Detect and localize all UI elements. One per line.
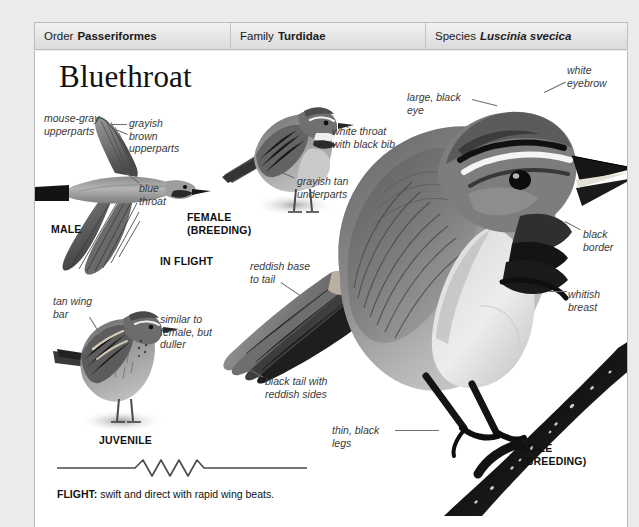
caption-male-in-flight: MALE xyxy=(51,223,82,236)
annotation-blue-throat: blue throat xyxy=(139,182,166,207)
flight-caption: FLIGHT: swift and direct with rapid wing… xyxy=(57,488,274,500)
annotation-similar-to-female: similar to female, but duller xyxy=(160,313,212,351)
annotation-grayish-brown-upperparts: grayish brown upperparts xyxy=(129,117,179,155)
flight-label: FLIGHT: xyxy=(57,488,97,500)
annotation-white-eyebrow: white eyebrow xyxy=(567,64,607,89)
order-label: Order xyxy=(44,30,73,42)
flight-description: swift and direct with rapid wing beats. xyxy=(97,488,274,500)
taxonomy-cell-family: Family Turdidae xyxy=(231,23,426,49)
flight-pattern-graphic xyxy=(57,457,307,479)
annotation-black-border: black border xyxy=(583,228,613,253)
annotation-whitish-breast: whitish breast xyxy=(568,288,600,313)
annotation-thin-black-legs: thin, black legs xyxy=(332,424,379,449)
page-title: Bluethroat xyxy=(59,59,192,95)
taxonomy-cell-species: Species Luscinia svecica xyxy=(426,23,627,49)
order-value: Passeriformes xyxy=(77,30,156,42)
annotation-mouse-gray-upperparts: mouse-gray upperparts xyxy=(44,112,99,137)
caption-in-flight: IN FLIGHT xyxy=(160,255,213,268)
family-value: Turdidae xyxy=(278,30,326,42)
species-value: Luscinia svecica xyxy=(480,30,571,42)
family-label: Family xyxy=(240,30,274,42)
annotation-black-tail-reddish-sides: black tail with reddish sides xyxy=(265,375,327,400)
caption-juvenile: JUVENILE xyxy=(99,434,152,447)
field-guide-page: Order Passeriformes Family Turdidae Spec… xyxy=(0,0,639,527)
species-label: Species xyxy=(435,30,476,42)
taxonomy-cell-order: Order Passeriformes xyxy=(35,23,231,49)
taxonomy-bar: Order Passeriformes Family Turdidae Spec… xyxy=(34,22,628,50)
annotation-large-black-eye: large, black eye xyxy=(407,91,461,116)
illustration-plate: Bluethroat xyxy=(34,51,628,527)
annotation-tan-wing-bar: tan wing bar xyxy=(53,295,92,320)
caption-male-breeding: MALE (BREEDING) xyxy=(522,442,586,467)
